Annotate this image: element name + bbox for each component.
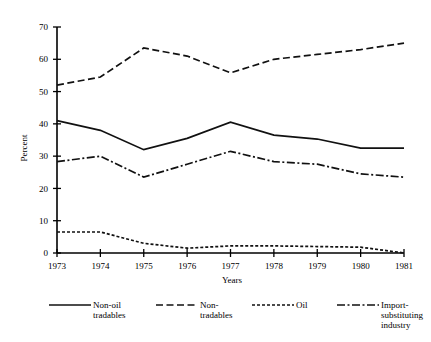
chart-figure: 010203040506070 197319741975197619771978… [0,0,431,342]
legend-label-non-oil-tradables: tradables [93,310,126,320]
legend-label-import-substituting-industry: industry [381,320,411,330]
y-tick-label: 10 [39,216,49,226]
x-axis-tick-labels: 197319741975197619771978197919801981 [48,261,413,271]
series-line-non-tradables [57,43,404,85]
axis-tick-marks [53,27,404,257]
y-tick-label: 0 [44,248,49,258]
y-tick-label: 30 [39,151,49,161]
x-tick-label: 1979 [308,261,327,271]
legend-item-oil: Oil [252,300,308,310]
y-tick-label: 70 [39,22,49,32]
x-tick-label: 1974 [91,261,110,271]
y-axis-title: Percent [19,134,29,161]
chart-legend: Non-oiltradablesNon-tradablesOilImport-s… [49,300,424,330]
legend-item-non-tradables: Non-tradables [156,300,233,320]
legend-label-non-oil-tradables: Non-oil [93,300,121,310]
x-tick-label: 1977 [222,261,241,271]
series-line-non-oil-tradables [57,121,404,150]
line-chart: 010203040506070 197319741975197619771978… [0,0,431,342]
data-series-group [57,43,404,253]
legend-item-import-substituting-industry: Import-substitutingindustry [337,300,424,330]
y-tick-label: 20 [39,184,49,194]
legend-label-non-tradables: Non- [200,300,219,310]
x-tick-label: 1975 [135,261,154,271]
legend-label-oil: Oil [296,300,308,310]
legend-label-import-substituting-industry: substituting [381,310,424,320]
x-tick-label: 1981 [395,261,413,271]
x-tick-label: 1976 [178,261,197,271]
y-tick-label: 50 [39,87,49,97]
y-axis-tick-labels: 010203040506070 [39,22,49,258]
y-tick-label: 40 [39,119,49,129]
x-tick-label: 1973 [48,261,67,271]
y-tick-label: 60 [39,54,49,64]
series-line-import-substituting-industry [57,151,404,177]
legend-item-non-oil-tradables: Non-oiltradables [49,300,126,320]
x-tick-label: 1978 [265,261,284,271]
legend-label-import-substituting-industry: Import- [381,300,409,310]
x-tick-label: 1980 [352,261,371,271]
x-axis-title: Years [222,275,243,285]
legend-label-non-tradables: tradables [200,310,233,320]
